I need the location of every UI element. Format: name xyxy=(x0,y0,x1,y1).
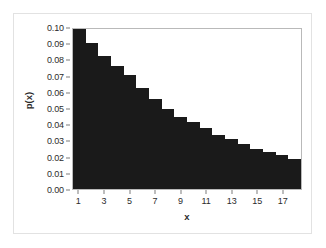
y-tick-mark xyxy=(66,157,70,158)
x-tick-label: 9 xyxy=(178,196,183,206)
x-tick-mark xyxy=(155,190,156,194)
y-tick-mark xyxy=(66,44,70,45)
x-tick-mark xyxy=(180,190,181,194)
bar xyxy=(250,149,263,189)
y-tick-mark xyxy=(66,76,70,77)
bar xyxy=(225,139,238,189)
x-tick-label: 7 xyxy=(153,196,158,206)
bar xyxy=(263,152,276,189)
y-tick-mark xyxy=(66,141,70,142)
y-axis-ticks: 0.000.010.020.030.040.050.060.070.080.09… xyxy=(30,28,70,190)
y-tick-label: 0.01 xyxy=(47,169,64,179)
x-tick-label: 13 xyxy=(227,196,237,206)
bar xyxy=(288,159,301,189)
bar xyxy=(86,43,99,189)
bar xyxy=(124,75,137,189)
bar xyxy=(136,88,149,189)
y-tick-label: 0.02 xyxy=(47,153,64,163)
y-tick-label: 0.03 xyxy=(47,136,64,146)
y-tick-mark xyxy=(66,28,70,29)
x-tick-mark xyxy=(282,190,283,194)
bar xyxy=(149,99,162,189)
x-tick-mark xyxy=(257,190,258,194)
x-axis-ticks: 1357911131517 xyxy=(72,190,302,210)
x-tick-label: 1 xyxy=(76,196,81,206)
x-tick-mark xyxy=(231,190,232,194)
bar xyxy=(98,56,111,189)
bar xyxy=(187,122,200,189)
x-tick-label: 17 xyxy=(278,196,288,206)
y-axis-title: p(x) xyxy=(23,92,34,109)
bar xyxy=(174,117,187,189)
x-axis-title: x xyxy=(72,211,302,222)
y-tick-label: 0.00 xyxy=(47,185,64,195)
x-tick-mark xyxy=(103,190,104,194)
x-tick-mark xyxy=(129,190,130,194)
x-tick-label: 5 xyxy=(127,196,132,206)
x-tick-mark xyxy=(78,190,79,194)
chart-figure: 0.000.010.020.030.040.050.060.070.080.09… xyxy=(0,0,326,248)
bar xyxy=(162,109,175,189)
bar xyxy=(276,155,289,189)
y-tick-label: 0.05 xyxy=(47,104,64,114)
bar xyxy=(200,128,213,189)
y-tick-mark xyxy=(66,125,70,126)
y-tick-mark xyxy=(66,109,70,110)
bar xyxy=(212,135,225,189)
y-tick-label: 0.09 xyxy=(47,39,64,49)
y-tick-mark xyxy=(66,92,70,93)
bar xyxy=(73,29,86,189)
y-tick-mark xyxy=(66,60,70,61)
bar xyxy=(238,144,251,189)
y-tick-mark xyxy=(66,173,70,174)
y-tick-label: 0.06 xyxy=(47,88,64,98)
x-tick-label: 3 xyxy=(101,196,106,206)
bar xyxy=(111,66,124,189)
y-tick-label: 0.04 xyxy=(47,120,64,130)
plot-area xyxy=(72,28,302,190)
y-tick-label: 0.08 xyxy=(47,55,64,65)
y-tick-mark xyxy=(66,190,70,191)
bar-series xyxy=(73,29,301,189)
x-tick-mark xyxy=(206,190,207,194)
x-tick-label: 15 xyxy=(252,196,262,206)
y-tick-label: 0.10 xyxy=(47,23,64,33)
x-tick-label: 11 xyxy=(201,196,210,206)
y-tick-label: 0.07 xyxy=(47,72,64,82)
